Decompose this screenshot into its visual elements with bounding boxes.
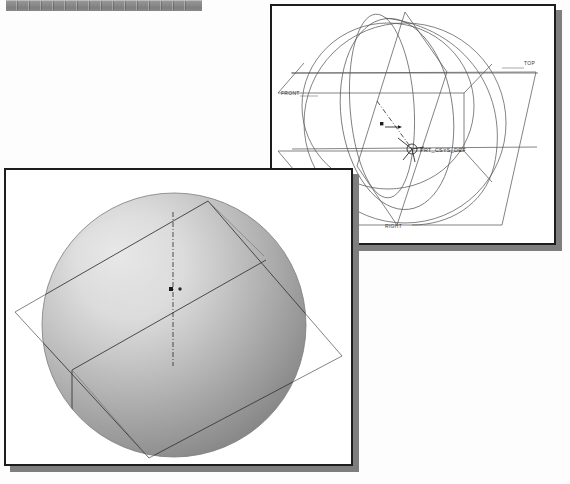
datum-plane-front-side-a xyxy=(278,63,304,93)
label-top: TOP xyxy=(524,60,535,66)
cad-window-shaded[interactable] xyxy=(4,168,353,466)
shaded-viewport[interactable] xyxy=(6,170,351,464)
center-point-dot xyxy=(178,287,181,290)
construction-circle-inner xyxy=(302,23,474,189)
shaded-sphere-highlight xyxy=(61,214,217,346)
label-right: RIGHT xyxy=(385,223,402,229)
cropped-toolbar-strip xyxy=(6,0,202,11)
label-front: FRONT xyxy=(281,90,300,96)
selected-point-arrowhead xyxy=(398,125,402,129)
label-prt-csys-def: PRT_CSYS_DEF xyxy=(420,147,466,153)
window-frame xyxy=(4,168,353,466)
scanned-page: TOP FRONT RIGHT PRT_CSYS_DEF xyxy=(0,0,570,484)
shaded-model-drawing xyxy=(6,170,351,464)
center-point-square xyxy=(169,287,173,291)
selected-point-square xyxy=(380,122,383,125)
datum-plane-front-side-d xyxy=(464,151,492,182)
